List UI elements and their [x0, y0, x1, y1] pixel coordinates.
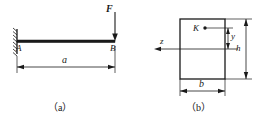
dim-b-arrow-head-right	[218, 89, 225, 93]
dim-h-arrow-head-bottom	[244, 72, 248, 79]
span-arrow-head-right	[108, 65, 115, 70]
dim-label-h: h	[236, 44, 241, 53]
dim-h-arrow-head-top	[244, 19, 248, 26]
span-arrow-head-left	[17, 65, 24, 70]
axis-label-z: z	[160, 37, 164, 46]
dim-label-y: y	[231, 32, 235, 41]
dim-label-b: b	[199, 79, 204, 89]
dim-b-arrow-head-left	[180, 89, 187, 93]
caption-panel-b: （b）	[186, 103, 211, 113]
dim-y-arrow-head-top	[226, 28, 230, 34]
cantilever-beam	[17, 40, 115, 43]
caption-panel-a: （a）	[48, 103, 72, 113]
support-label-A: A	[16, 44, 22, 53]
point-label-K: K	[193, 24, 199, 33]
dim-y-arrow-head-bottom	[226, 43, 230, 49]
figure-canvas	[0, 0, 260, 127]
span-label-a: a	[62, 55, 67, 65]
force-label-F: F	[106, 4, 113, 14]
z-axis-arrow-head	[154, 47, 161, 51]
free-end-label-B: B	[110, 44, 116, 53]
